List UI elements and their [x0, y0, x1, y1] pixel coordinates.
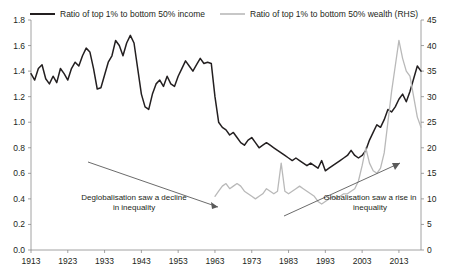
- y-tick-label-right: 10: [427, 194, 437, 204]
- y-tick-label-left: 1.4: [13, 66, 25, 76]
- y-tick-label-left: 1.0: [13, 117, 25, 127]
- y-tick-label-left: 0.8: [13, 143, 25, 153]
- chart-container: 0.00.20.40.60.81.01.21.41.61.80510152025…: [0, 0, 449, 272]
- x-tick-label: 1963: [206, 256, 225, 266]
- x-tick-label: 2013: [389, 256, 408, 266]
- x-tick-label: 1973: [242, 256, 261, 266]
- y-tick-label-right: 40: [427, 41, 437, 51]
- y-tick-label-left: 0.2: [13, 219, 25, 229]
- inequality-line-chart: 0.00.20.40.60.81.01.21.41.61.80510152025…: [0, 0, 449, 272]
- x-tick-label: 1943: [132, 256, 151, 266]
- x-tick-label: 1913: [22, 256, 41, 266]
- y-tick-label-left: 0.6: [13, 168, 25, 178]
- series-line-wealth: [215, 40, 421, 204]
- annotation-deglobalisation-line1: Deglobalisation saw a decline: [81, 193, 187, 202]
- y-tick-label-right: 0: [427, 245, 432, 255]
- y-tick-label-left: 0.0: [13, 245, 25, 255]
- x-tick-label: 1953: [169, 256, 188, 266]
- y-tick-label-right: 30: [427, 92, 437, 102]
- x-tick-label: 1983: [279, 256, 298, 266]
- x-tick-label: 1923: [58, 256, 77, 266]
- y-tick-label-right: 45: [427, 15, 437, 25]
- y-tick-label-right: 20: [427, 143, 437, 153]
- y-tick-label-left: 1.6: [13, 41, 25, 51]
- legend-label-income: Ratio of top 1% to bottom 50% income: [60, 9, 205, 19]
- y-tick-label-right: 25: [427, 117, 437, 127]
- y-tick-label-left: 0.4: [13, 194, 25, 204]
- x-tick-label: 1933: [95, 256, 114, 266]
- y-tick-label-right: 5: [427, 219, 432, 229]
- y-tick-label-left: 1.2: [13, 92, 25, 102]
- y-tick-label-right: 35: [427, 66, 437, 76]
- y-tick-label-right: 15: [427, 168, 437, 178]
- series-line-income: [31, 35, 421, 170]
- y-tick-label-left: 1.8: [13, 15, 25, 25]
- annotation-globalisation-line1: Globalisation saw a rise in: [324, 193, 417, 202]
- annotation-globalisation-line2: inequality: [353, 203, 387, 212]
- x-tick-label: 1993: [316, 256, 335, 266]
- annotation-deglobalisation-line2: in inequality: [113, 203, 155, 212]
- arrow-head-down: [211, 202, 218, 209]
- legend-label-wealth: Ratio of top 1% to bottom 50% wealth (RH…: [250, 9, 418, 19]
- x-tick-label: 2003: [353, 256, 372, 266]
